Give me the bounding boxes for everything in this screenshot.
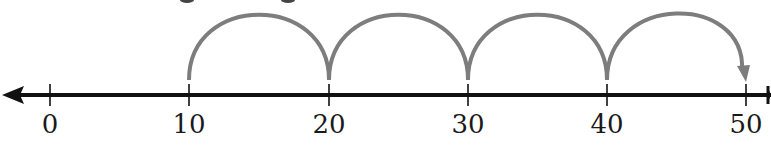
tick-label-10: 10	[172, 109, 205, 139]
number-line-canvas	[0, 0, 771, 156]
jump-arc-20-to-30	[329, 15, 468, 80]
jump-arc-30-to-40	[468, 15, 607, 80]
jump-arc-10-to-20	[189, 15, 329, 80]
tick-label-20: 20	[312, 109, 345, 139]
jump-arrowhead-icon	[737, 65, 750, 82]
tick-label-30: 30	[451, 109, 484, 139]
jump-arcs	[189, 13, 750, 82]
tick-label-50: 50	[729, 109, 762, 139]
tick-label-40: 40	[590, 109, 623, 139]
cropped-heading-fragment	[180, 0, 295, 3]
jump-arc-40-to-50	[607, 13, 742, 80]
number-line-diagram: 0 10 20 30 40 50	[0, 0, 771, 156]
tick-label-0: 0	[42, 109, 59, 139]
